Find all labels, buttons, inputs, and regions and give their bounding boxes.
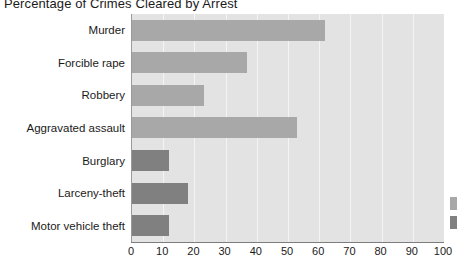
x-tick-label-30: 30	[218, 245, 230, 257]
legend-swatch-icon	[450, 197, 457, 210]
legend-item: Property crime	[450, 216, 457, 229]
chart-legend: Violent crimeProperty crime	[450, 197, 457, 235]
bar-row	[132, 177, 444, 210]
y-axis-label-murder: Murder	[0, 24, 125, 36]
bar-row	[132, 79, 444, 112]
x-axis-line	[131, 242, 444, 243]
bar-chart: Percentage of Crimes Cleared by Arrest M…	[0, 0, 457, 262]
bar-row	[132, 112, 444, 145]
bar-burglary	[132, 150, 169, 171]
legend-swatch-icon	[450, 216, 457, 229]
bar-murder	[132, 20, 325, 41]
y-axis-label-robbery: Robbery	[0, 89, 125, 101]
x-tick-label-100: 100	[434, 245, 452, 257]
bar-forcible-rape	[132, 52, 247, 73]
x-tick-label-50: 50	[281, 245, 293, 257]
x-tick-label-80: 80	[374, 245, 386, 257]
y-axis-label-larceny-theft: Larceny-theft	[0, 187, 125, 199]
bar-row	[132, 144, 444, 177]
bar-motor-vehicle-theft	[132, 215, 169, 236]
x-axis-tick-labels: 0102030405060708090100	[0, 245, 457, 261]
plot-area: Violent crimeProperty crime	[131, 14, 444, 242]
y-axis-label-burglary: Burglary	[0, 155, 125, 167]
x-tick-label-60: 60	[312, 245, 324, 257]
bar-rows	[132, 14, 444, 242]
bar-robbery	[132, 85, 204, 106]
x-tick-label-20: 20	[187, 245, 199, 257]
x-tick-label-10: 10	[156, 245, 168, 257]
x-tick-label-90: 90	[406, 245, 418, 257]
bar-row	[132, 47, 444, 80]
x-tick-label-0: 0	[128, 245, 134, 257]
bar-row	[132, 14, 444, 47]
legend-item: Violent crime	[450, 197, 457, 210]
y-axis-label-aggravated-assault: Aggravated assault	[0, 122, 125, 134]
x-tick-label-40: 40	[250, 245, 262, 257]
y-axis-category-labels: MurderForcible rapeRobberyAggravated ass…	[0, 14, 125, 242]
y-axis-label-forcible-rape: Forcible rape	[0, 57, 125, 69]
x-tick-label-70: 70	[343, 245, 355, 257]
y-axis-label-motor-vehicle-theft: Motor vehicle theft	[0, 220, 125, 232]
chart-title: Percentage of Crimes Cleared by Arrest	[4, 0, 238, 11]
bar-aggravated-assault	[132, 117, 297, 138]
bar-row	[132, 209, 444, 242]
bar-larceny-theft	[132, 183, 188, 204]
